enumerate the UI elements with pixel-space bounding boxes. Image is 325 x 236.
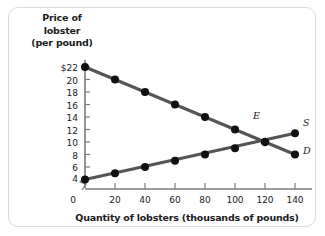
data-point [231,144,239,152]
data-point [81,63,89,71]
data-point [171,157,179,165]
data-point [291,151,299,159]
x-axis-title: Quantity of lobsters (thousands of pound… [62,212,312,223]
data-point [111,76,119,84]
equilibrium-point [261,138,270,147]
data-point [141,88,149,96]
chart-canvas [0,0,325,236]
data-point [171,101,179,109]
data-point [111,169,119,177]
supply-curve [81,129,299,183]
supply-demand-chart: Price of lobster (per pound) $22 20 18 1… [0,0,325,236]
data-point [291,129,299,137]
data-point [231,126,239,134]
data-point [201,113,209,121]
x-axis [85,183,312,189]
data-point [81,176,89,184]
data-point [201,151,209,159]
data-point [141,163,149,171]
y-axis [85,60,90,188]
